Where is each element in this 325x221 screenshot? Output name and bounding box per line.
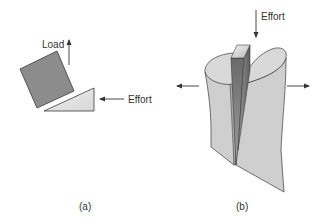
effort-label-a: Effort [128, 94, 152, 105]
load-label: Load [42, 39, 64, 50]
effort-label-b: Effort [261, 11, 285, 22]
wedge-diagram: Load Effort (a) Effort (b) [0, 0, 325, 221]
caption-b: (b) [236, 201, 248, 212]
panel-b: Effort (b) [177, 10, 309, 212]
load-block [20, 51, 74, 108]
caption-a: (a) [79, 201, 91, 212]
panel-a: Load Effort (a) [20, 39, 152, 212]
